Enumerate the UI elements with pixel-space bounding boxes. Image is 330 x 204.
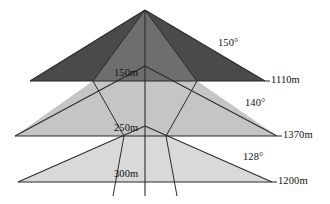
cone-cross-section-figure xyxy=(0,0,330,204)
width-label-1110m: 1110m xyxy=(271,75,300,86)
height-label-300m: 300m xyxy=(114,169,138,180)
width-label-1200m: 1200m xyxy=(278,176,308,187)
height-label-150m: 150m xyxy=(114,68,138,79)
angle-label-140: 140° xyxy=(245,98,265,109)
diagram-canvas: 150m 250m 300m 1110m 1370m 1200m 150° 14… xyxy=(0,0,330,204)
angle-label-128: 128° xyxy=(243,152,263,163)
width-label-1370m: 1370m xyxy=(283,130,313,141)
height-label-250m: 250m xyxy=(114,123,138,134)
middle-tier-shape xyxy=(15,81,277,136)
angle-label-150: 150° xyxy=(218,38,238,49)
